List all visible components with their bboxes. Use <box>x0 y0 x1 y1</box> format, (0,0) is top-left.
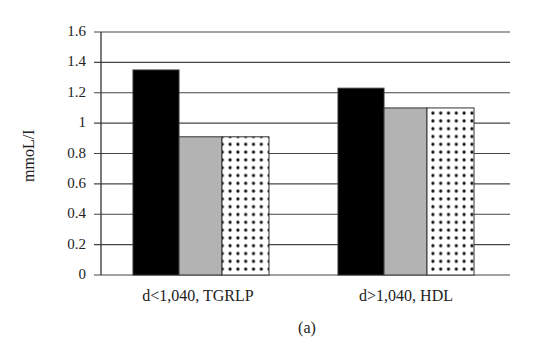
bar-series-3-0 <box>222 137 269 275</box>
y-tick-label: 0.2 <box>46 236 86 253</box>
category-label-hdl: d>1,040, HDL <box>331 287 481 305</box>
bar-chart: mmoL/I 00.20.40.60.811.21.41.6 d<1,040, … <box>0 0 534 357</box>
y-axis-label: mmoL/I <box>20 142 40 182</box>
y-tick-label: 1.4 <box>46 53 86 70</box>
y-tick-label: 0.8 <box>46 145 86 162</box>
y-tick-label: 1 <box>46 114 86 131</box>
category-label-tgrlp: d<1,040, TGRLP <box>123 287 273 305</box>
y-tick-label: 0.6 <box>46 175 86 192</box>
bar-series-2-0 <box>179 137 222 275</box>
bar-series-1-1 <box>338 88 384 275</box>
y-tick-label: 0 <box>46 266 86 283</box>
y-tick-label: 1.2 <box>46 84 86 101</box>
y-tick-label: 0.4 <box>46 205 86 222</box>
figure-caption: (a) <box>287 319 327 337</box>
y-tick-label: 1.6 <box>46 23 86 40</box>
bar-series-1-0 <box>133 70 179 275</box>
bar-series-3-1 <box>427 108 474 275</box>
bar-series-2-1 <box>384 108 427 275</box>
